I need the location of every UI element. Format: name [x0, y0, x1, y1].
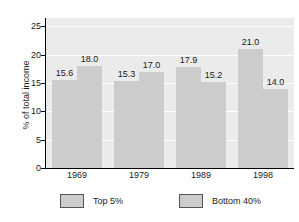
bar-group	[46, 18, 108, 168]
y-tick-mark	[41, 83, 45, 84]
legend-swatch	[60, 194, 84, 208]
legend-entry[interactable]: Bottom 40%	[179, 192, 261, 210]
bar-value-label: 18.0	[81, 54, 99, 64]
bar-value-label: 17.0	[143, 60, 161, 70]
y-tick-label: 10	[5, 106, 41, 116]
legend-swatch	[179, 194, 203, 208]
bar-value-label: 15.3	[118, 69, 136, 79]
bars-layer: 15.618.015.317.017.915.221.014.0	[46, 18, 294, 168]
y-tick-mark	[41, 168, 45, 169]
y-tick-label: 25	[5, 21, 41, 31]
y-tick-label: 0	[5, 163, 41, 173]
bar[interactable]	[114, 81, 139, 168]
bar[interactable]	[263, 89, 288, 168]
bar-value-label: 21.0	[242, 37, 260, 47]
bar[interactable]	[77, 66, 102, 168]
bar-value-label: 14.0	[267, 77, 285, 87]
x-axis-labels: 1969197919891998	[46, 170, 294, 184]
y-tick-label: 5	[5, 135, 41, 145]
y-tick-mark	[41, 140, 45, 141]
legend-label: Top 5%	[93, 196, 123, 206]
bar[interactable]	[176, 67, 201, 168]
x-axis-line	[45, 168, 294, 169]
legend-label: Bottom 40%	[212, 196, 261, 206]
bar-chart: % of total income 0510152025 15.618.015.…	[0, 0, 299, 222]
chart-legend: Top 5%Bottom 40%	[46, 192, 294, 212]
bar-group	[170, 18, 232, 168]
x-tick-label: 1998	[253, 170, 273, 180]
bar[interactable]	[139, 72, 164, 168]
bar[interactable]	[52, 80, 77, 168]
y-axis-ticks: 0510152025	[0, 0, 41, 222]
bar-value-label: 15.6	[56, 68, 74, 78]
y-tick-mark	[41, 26, 45, 27]
bar-value-label: 17.9	[180, 55, 198, 65]
bar-value-label: 15.2	[205, 70, 223, 80]
x-tick-label: 1979	[129, 170, 149, 180]
y-tick-label: 20	[5, 50, 41, 60]
y-tick-mark	[41, 111, 45, 112]
bar-group	[108, 18, 170, 168]
x-tick-label: 1989	[191, 170, 211, 180]
y-tick-label: 15	[5, 78, 41, 88]
bar[interactable]	[201, 82, 226, 168]
bar[interactable]	[238, 49, 263, 168]
x-tick-label: 1969	[67, 170, 87, 180]
legend-entry[interactable]: Top 5%	[60, 192, 123, 210]
y-tick-mark	[41, 55, 45, 56]
